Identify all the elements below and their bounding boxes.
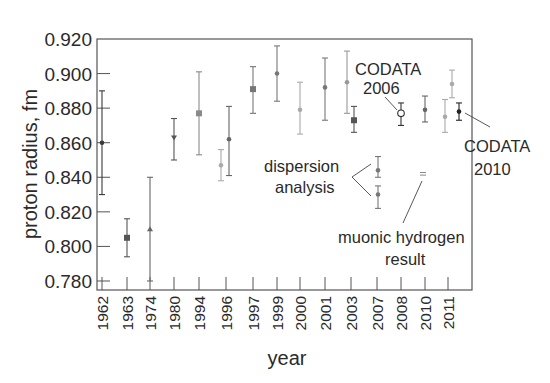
y-tick-label: 0.840 (44, 167, 92, 188)
dot-marker (423, 108, 428, 113)
y-tick-label: 0.860 (44, 133, 92, 154)
data-point (147, 177, 153, 281)
leader-dispersion (352, 164, 371, 196)
x-tick-label: 2010 (417, 296, 434, 331)
proton-radius-chart: 0.9200.9000.8800.8600.8400.8200.8000.780… (0, 0, 550, 383)
dot-marker (443, 114, 448, 119)
x-tick-label: 1999 (269, 296, 286, 330)
dot-marker (450, 82, 455, 87)
dot-marker (457, 109, 462, 114)
x-tick-label: 1974 (142, 296, 159, 331)
data-point (196, 72, 202, 155)
data-point (375, 186, 381, 208)
x-tick-label: 2001 (317, 296, 334, 330)
dot-marker (345, 80, 350, 85)
annotation-codata-2010-line2: 2010 (474, 160, 511, 178)
y-axis: 0.9200.9000.8800.8600.8400.8200.8000.780 (44, 29, 110, 292)
dot-marker (275, 71, 280, 76)
square-marker (351, 117, 357, 123)
data-point (449, 70, 455, 98)
data-point (274, 46, 280, 101)
data-point (442, 99, 448, 132)
x-tick-label: 1980 (166, 296, 183, 331)
x-tick-label: 1996 (218, 296, 235, 330)
data-point (375, 157, 381, 178)
data-point (297, 82, 303, 134)
dot-marker (323, 85, 328, 90)
dot-marker (376, 192, 381, 197)
data-point (250, 67, 256, 114)
data-point (344, 51, 350, 113)
triangle-marker (147, 226, 153, 231)
x-tick-label: 1962 (94, 296, 111, 330)
leader-codata-2010 (465, 113, 490, 127)
x-tick-label: 1994 (191, 296, 208, 331)
data-point (322, 58, 328, 120)
annotation-codata-2006-line1: CODATA (355, 60, 421, 78)
data-point (124, 219, 130, 257)
x-tick-label: 2011 (440, 296, 457, 329)
x-tick-label: 1963 (119, 296, 136, 330)
data-point (420, 173, 426, 176)
data-point (226, 106, 232, 175)
y-tick-label: 0.900 (44, 64, 92, 85)
data-point (456, 103, 462, 120)
y-tick-label: 0.920 (44, 29, 92, 50)
x-tick-label: 1997 (245, 296, 262, 330)
annotation-codata-2006-line2: 2006 (363, 79, 400, 97)
dot-marker (298, 108, 303, 113)
square-marker (250, 86, 256, 92)
dot-marker (227, 137, 232, 142)
data-point (99, 91, 105, 195)
data-point (218, 150, 224, 181)
annotation-dispersion-line2: analysis (275, 178, 335, 196)
x-tick-label: 2003 (343, 296, 360, 330)
y-axis-title: proton radius, fm (19, 89, 41, 239)
data-point (398, 103, 405, 125)
leader-codata-2006 (385, 97, 397, 110)
data-point (422, 96, 428, 122)
y-tick-label: 0.880 (44, 98, 92, 119)
dot-marker (219, 163, 224, 168)
x-axis: 1962196319741980199419961997199920002001… (94, 277, 457, 330)
x-tick-label: 2008 (393, 296, 410, 330)
data-point (351, 106, 357, 132)
annotation-codata-2010-line1: CODATA (464, 137, 530, 155)
x-axis-title: year (268, 347, 307, 369)
open-circle-marker (398, 110, 405, 117)
triangle-down-marker (171, 136, 177, 141)
y-tick-label: 0.800 (44, 236, 92, 257)
annotation-dispersion-line1: dispersion (264, 157, 339, 175)
x-tick-label: 2000 (292, 296, 309, 331)
y-tick-label: 0.780 (44, 271, 92, 292)
y-tick-label: 0.820 (44, 202, 92, 223)
square-marker (196, 110, 202, 116)
x-tick-label: 2007 (369, 296, 386, 330)
square-marker (124, 235, 130, 241)
leader-muonic-hydrogen (403, 181, 422, 223)
annotation-muonic-line1: muonic hydrogen (338, 228, 465, 246)
dot-marker (100, 140, 105, 145)
annotation-muonic-line2: result (385, 250, 426, 268)
dot-marker (376, 168, 381, 173)
data-point (171, 119, 177, 160)
